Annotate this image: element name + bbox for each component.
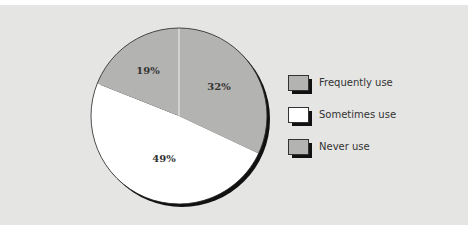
legend-swatch-icon <box>288 75 308 90</box>
legend-item-never-use: Never use <box>288 139 396 171</box>
pie-chart: 19% 32% 49% <box>0 0 473 228</box>
legend-item-sometimes-use: Sometimes use <box>288 107 396 139</box>
chart-legend: Frequently use Sometimes use Never use <box>288 75 396 171</box>
legend-label: Never use <box>319 139 370 154</box>
legend-swatch-icon <box>288 139 308 154</box>
label-frequently-use: 32% <box>207 81 231 92</box>
legend-item-frequently-use: Frequently use <box>288 75 396 107</box>
legend-label: Frequently use <box>319 75 393 90</box>
legend-label: Sometimes use <box>319 107 396 122</box>
label-never-use: 19% <box>136 65 160 76</box>
legend-swatch-icon <box>288 107 308 122</box>
label-sometimes-use: 49% <box>152 153 176 164</box>
